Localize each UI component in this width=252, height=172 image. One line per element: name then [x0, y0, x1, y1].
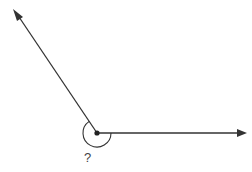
- vertex-point: [94, 130, 99, 135]
- upper-left-arrowhead-icon: [13, 9, 23, 21]
- right-arrowhead-icon: [237, 129, 247, 137]
- upper-left-ray: [17, 14, 97, 133]
- angle-label: ?: [84, 150, 91, 165]
- angle-diagram: ?: [0, 0, 252, 172]
